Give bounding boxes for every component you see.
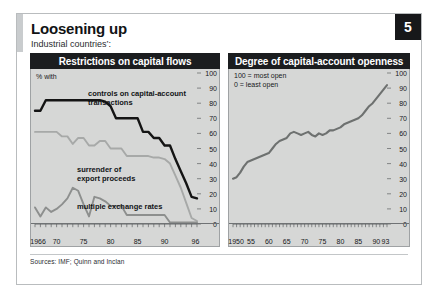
series-label-controls: controls on capital-account transactions xyxy=(88,89,186,107)
right-scale-note: 100 = most open 0 = least open xyxy=(234,72,286,89)
x-tick-label: 90 xyxy=(372,238,380,245)
x-tick-label: 80 xyxy=(107,238,115,245)
x-tick-label: 96 xyxy=(192,238,200,245)
y-tick-label: 20 xyxy=(197,190,217,197)
y-tick-label: 30 xyxy=(387,175,407,182)
left-x-axis-band xyxy=(31,223,219,235)
x-tick-label: 65 xyxy=(283,238,291,245)
panel-openness: Degree of capital-account openness 100 =… xyxy=(228,53,410,247)
x-tick-label: 55 xyxy=(247,238,255,245)
x-tick-label: 90 xyxy=(161,238,169,245)
panel-openness-plot: 100 = most open 0 = least open 010203040… xyxy=(228,69,410,247)
series-label-surrender: surrender of export proceeds xyxy=(77,165,135,183)
x-tick-label: 60 xyxy=(265,238,273,245)
page-title: Loosening up xyxy=(31,20,127,37)
panel-openness-header: Degree of capital-account openness xyxy=(228,53,410,69)
source-note: Sources: IMF; Quinn and Inclan xyxy=(30,258,124,265)
left-y-axis-labels: 0102030405060708090100 xyxy=(197,69,217,246)
page-number-badge: 5 xyxy=(395,14,421,40)
y-tick-label: 90 xyxy=(387,85,407,92)
y-tick-label: 70 xyxy=(197,115,217,122)
y-tick-label: 10 xyxy=(387,205,407,212)
y-tick-label: 100 xyxy=(197,70,217,77)
y-tick-label: 40 xyxy=(197,160,217,167)
y-tick-label: 100 xyxy=(387,70,407,77)
x-tick-label: 70 xyxy=(53,238,61,245)
y-tick-label: 50 xyxy=(387,145,407,152)
chart-card: 5 Loosening up Industrial countries’: Re… xyxy=(16,13,422,285)
right-x-axis-labels: 1950556065707580859093 xyxy=(229,235,409,246)
x-tick-label: 93 xyxy=(382,238,390,245)
x-tick-label: 80 xyxy=(336,238,344,245)
x-tick-label: 70 xyxy=(301,238,309,245)
y-tick-label: 80 xyxy=(387,100,407,107)
y-tick-label: 70 xyxy=(387,115,407,122)
left-unit-note: % with xyxy=(36,73,57,82)
left-x-axis-labels: 1966707580859096 xyxy=(31,235,219,246)
series-line xyxy=(233,85,387,179)
right-chart-svg xyxy=(229,69,409,246)
y-tick-label: 60 xyxy=(387,130,407,137)
panel-restrictions: Restrictions on capital flows % with 010… xyxy=(30,53,220,247)
series-label-multiple: multiple exchange rates xyxy=(77,202,162,211)
card-accent-bar xyxy=(17,14,23,52)
x-tick-label: 75 xyxy=(319,238,327,245)
source-divider xyxy=(30,254,408,255)
y-tick-label: 20 xyxy=(387,190,407,197)
page-subtitle: Industrial countries’: xyxy=(31,39,111,49)
y-tick-label: 80 xyxy=(197,100,217,107)
y-tick-label: 40 xyxy=(387,160,407,167)
y-tick-label: 30 xyxy=(197,175,217,182)
y-tick-label: 60 xyxy=(197,130,217,137)
x-tick-label: 1950 xyxy=(228,238,244,245)
x-tick-label: 1966 xyxy=(30,238,46,245)
right-y-axis-labels: 0102030405060708090100 xyxy=(387,69,407,246)
x-tick-label: 85 xyxy=(354,238,362,245)
y-tick-label: 90 xyxy=(197,85,217,92)
right-x-axis-band xyxy=(229,223,409,235)
x-tick-label: 75 xyxy=(80,238,88,245)
x-tick-label: 85 xyxy=(134,238,142,245)
panel-restrictions-plot: % with 0102030405060708090100 1966707580… xyxy=(30,69,220,247)
panel-restrictions-header: Restrictions on capital flows xyxy=(30,53,220,69)
y-tick-label: 50 xyxy=(197,145,217,152)
y-tick-label: 10 xyxy=(197,205,217,212)
